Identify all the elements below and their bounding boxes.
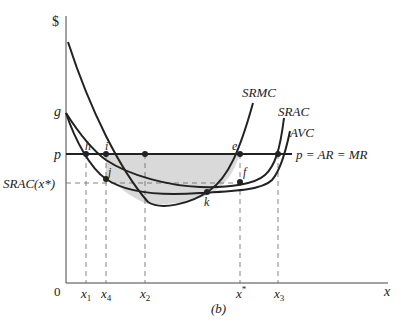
point-x3 — [275, 151, 281, 157]
y-axis-label: $ — [52, 14, 59, 29]
price-line-label: p = AR = MR — [295, 147, 368, 162]
x-axis-label: x — [383, 284, 391, 299]
i-label: i — [105, 139, 108, 153]
x3-label: x3 — [273, 286, 285, 303]
srmc-label: SRMC — [242, 85, 276, 100]
srac-xstar-label: SRAC(x*) — [3, 176, 55, 191]
f-label: f — [243, 165, 248, 179]
shaded-profit-region — [106, 154, 240, 204]
g-label: g — [54, 104, 61, 119]
point-e — [237, 151, 243, 157]
point-f — [237, 179, 243, 185]
point-x2 — [142, 151, 148, 157]
x2-label: x2 — [139, 286, 150, 303]
h-label: h — [85, 139, 91, 153]
p-label: p — [53, 147, 61, 162]
xstar-label: x* — [235, 284, 247, 301]
panel-label: (b) — [211, 301, 226, 316]
k-label: k — [204, 195, 210, 209]
srac-label: SRAC — [278, 104, 309, 119]
x4-label: x4 — [100, 286, 112, 303]
origin-label: 0 — [54, 284, 61, 299]
e-label: e — [232, 139, 238, 153]
cost-curves-diagram: $ x 0 g p SRAC(x*) x1 x4 x2 x* x3 SRMC S… — [0, 0, 405, 335]
x-tick-labels: x1 x4 x2 x* x3 — [80, 284, 285, 303]
x1-label: x1 — [80, 286, 91, 303]
avc-label: AVC — [289, 125, 314, 140]
